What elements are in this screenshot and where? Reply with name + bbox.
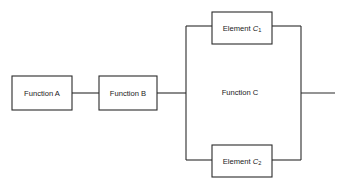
element-c2-subscript: 2 — [258, 160, 261, 166]
block-function-b[interactable]: Function B — [99, 76, 157, 110]
block-function-b-label: Function B — [110, 89, 146, 98]
element-c2-prefix: Element — [223, 157, 253, 166]
block-element-c1[interactable]: Element C1 — [212, 12, 272, 44]
block-element-c1-label: Element C1 — [223, 24, 262, 33]
block-diagram-canvas: Function C Function A Function B Element… — [0, 0, 341, 186]
diagram-svg: Function C Function A Function B Element… — [0, 0, 341, 186]
block-function-a-label: Function A — [24, 89, 61, 98]
element-c1-subscript: 1 — [258, 27, 261, 33]
block-function-a[interactable]: Function A — [12, 76, 72, 110]
element-c1-prefix: Element — [223, 24, 253, 33]
block-element-c2-label: Element C2 — [223, 157, 262, 166]
block-element-c2[interactable]: Element C2 — [212, 145, 272, 177]
region-label-function-c: Function C — [222, 88, 259, 97]
region-function-c: Function C — [222, 88, 259, 97]
